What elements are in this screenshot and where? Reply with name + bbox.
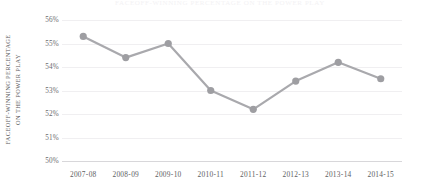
series-line — [83, 36, 381, 109]
y-axis-title-line-1: FACEOFF-WINNING PERCENTAGE — [3, 15, 13, 165]
data-point-marker: 2014-15: 53.5% — [377, 75, 384, 82]
x-tick-label: 2014-15 — [367, 170, 394, 179]
x-tick-label: 2012-13 — [282, 170, 309, 179]
x-tick-label: 2008-09 — [112, 170, 139, 179]
data-point-marker: 2007-08: 55.3% — [80, 33, 87, 40]
x-axis-tick-labels: 2007-082008-092009-102010-112011-122012-… — [0, 170, 436, 184]
data-point-marker: 2010-11: 53% — [207, 87, 214, 94]
data-series-powerplay-faceoff: 2007-08: 55.3%2008-09: 54.4%2009-10: 55%… — [50, 8, 414, 173]
x-tick-label: 2013-14 — [325, 170, 352, 179]
x-tick-label: 2007-08 — [70, 170, 97, 179]
plot-area: 2007-08: 55.3%2008-09: 54.4%2009-10: 55%… — [62, 20, 402, 161]
y-axis-title: FACEOFF-WINNING PERCENTAGE ON THE POWER … — [3, 15, 22, 165]
y-axis-title-line-2: ON THE POWER PLAY — [12, 15, 22, 165]
x-tick-label: 2010-11 — [198, 170, 224, 179]
data-point-marker: 2013-14: 54.2% — [335, 59, 342, 66]
data-point-marker: 2009-10: 55% — [165, 40, 172, 47]
data-point-marker: 2012-13: 53.4% — [292, 78, 299, 85]
chart-title: FACEOFF-WINNING PERCENTAGE ON THE POWER … — [60, 0, 380, 6]
x-tick-label: 2009-10 — [155, 170, 182, 179]
x-tick-label: 2011-12 — [240, 170, 266, 179]
line-chart-figure: FACEOFF-WINNING PERCENTAGE ON THE POWER … — [0, 0, 436, 189]
data-point-marker: 2011-12: 52.2% — [250, 106, 257, 113]
data-point-marker: 2008-09: 54.4% — [122, 54, 129, 61]
